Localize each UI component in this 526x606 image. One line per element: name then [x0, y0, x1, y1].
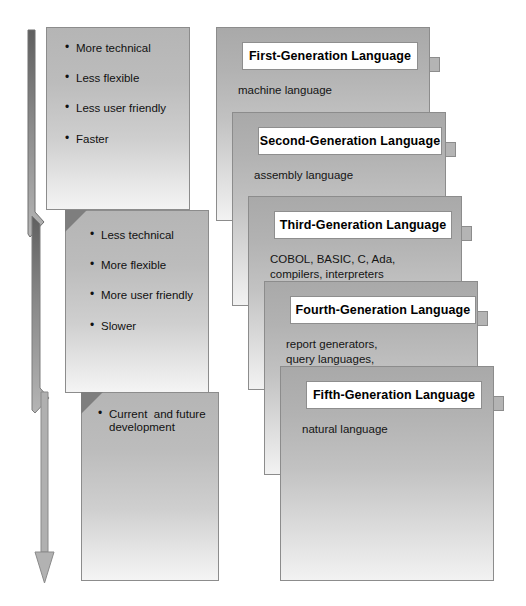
- generation-examples: natural language: [302, 422, 388, 437]
- generation-title-plate: First-Generation Language: [242, 42, 418, 70]
- list-item: Less technical: [90, 229, 200, 242]
- generation-examples: COBOL, BASIC, C, Ada, compilers, interpr…: [270, 252, 395, 282]
- generation-title: Second-Generation Language: [260, 134, 440, 148]
- generation-panel-5: Fifth-Generation Language natural langua…: [280, 366, 494, 581]
- generation-examples: assembly language: [254, 168, 353, 183]
- panel-tab-2: [446, 142, 456, 157]
- left-panel-traits-high-level: Less technical More flexible More user f…: [65, 210, 209, 393]
- generation-title: Third-Generation Language: [280, 218, 446, 232]
- generation-title-plate: Third-Generation Language: [274, 211, 452, 239]
- generation-title: Fifth-Generation Language: [313, 388, 475, 402]
- diagram-canvas: More technical Less flexible Less user f…: [0, 0, 526, 606]
- list-item: More technical: [65, 42, 181, 55]
- generation-title: First-Generation Language: [249, 49, 411, 63]
- list-item: More user friendly: [90, 289, 200, 302]
- list-item: More flexible: [90, 259, 200, 272]
- generation-title-plate: Second-Generation Language: [258, 127, 442, 155]
- bullet-list: More technical Less flexible Less user f…: [65, 42, 181, 163]
- panel-tab-1: [430, 57, 440, 72]
- generation-title-plate: Fifth-Generation Language: [306, 381, 482, 409]
- panel-tab-3: [462, 226, 472, 241]
- generation-title-plate: Fourth-Generation Language: [290, 296, 476, 324]
- list-item: Current and future development: [98, 408, 210, 434]
- corner-fold-icon: [65, 210, 87, 232]
- list-item: Slower: [90, 320, 200, 333]
- panel-tab-4: [478, 311, 488, 326]
- left-panel-traits-low-level: More technical Less flexible Less user f…: [46, 27, 190, 210]
- list-item: Faster: [65, 133, 181, 146]
- generation-examples: machine language: [238, 83, 332, 98]
- left-panel-traits-future: Current and future development: [81, 392, 219, 581]
- panel-tab-5: [494, 396, 504, 411]
- bullet-list: Current and future development: [98, 408, 210, 434]
- list-item: Less user friendly: [65, 102, 181, 115]
- generation-title: Fourth-Generation Language: [296, 303, 471, 317]
- list-item: Less flexible: [65, 72, 181, 85]
- bullet-list: Less technical More flexible More user f…: [90, 229, 200, 350]
